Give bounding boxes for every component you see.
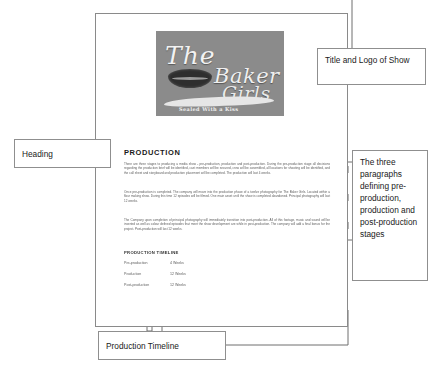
timeline-label: Post-production [124,283,170,287]
show-logo: The Baker Girls Sealed With a Kiss [156,31,284,116]
annotation-title-logo: Title and Logo of Show [317,48,426,85]
timeline-value: 12 Weeks [170,283,186,287]
timeline-label: Pre-production [124,261,170,265]
timeline-row: Production12 Weeks [124,272,244,276]
annotation-heading: Heading [14,139,111,168]
paragraph-pre-production: There are three stages to producing a me… [124,162,330,175]
document-heading: PRODUCTION [124,148,180,157]
timeline-value: 4 Weeks [170,261,184,265]
logo-tagline: Sealed With a Kiss [179,106,239,112]
timeline-heading: PRODUCTION TIMELINE [124,250,179,255]
annotation-production-timeline: Production Timeline [98,331,226,360]
document-page: The Baker Girls Sealed With a Kiss PRODU… [95,13,348,327]
paragraph-post-production: The Company upon completion of principal… [124,218,330,231]
annotated-document-diagram: The Baker Girls Sealed With a Kiss PRODU… [0,0,433,370]
paragraph-production: Once pre-production is completed. The co… [124,190,330,203]
timeline-row: Post-production12 Weeks [124,283,244,287]
annotation-paragraphs: The three paragraphs defining pre-produc… [352,150,428,281]
timeline-label: Production [124,272,170,276]
lips-icon [168,69,212,88]
timeline-row: Pre-production4 Weeks [124,261,244,265]
logo-text-the: The [165,41,216,70]
timeline-value: 12 Weeks [170,272,186,276]
